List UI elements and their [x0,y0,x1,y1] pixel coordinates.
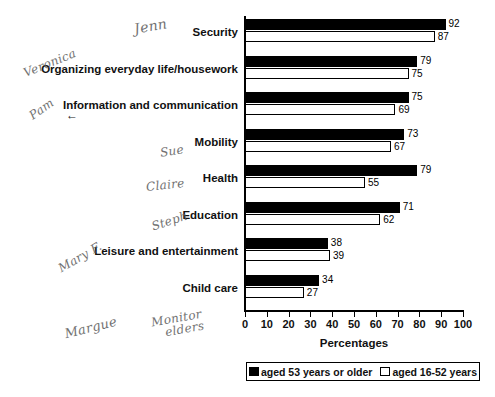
bar-value-older-security: 92 [449,18,460,29]
handwritten-note-pam: Pam [26,96,56,123]
bar-younger-leisure [245,250,330,261]
bar-younger-information [245,104,395,115]
bar-older-child-care [245,275,319,286]
legend-label-younger: aged 16-52 years [392,366,477,378]
x-axis-tick-label: 100 [454,318,472,331]
bar-younger-organizing [245,68,409,79]
bar-value-older-mobility: 73 [407,128,418,139]
category-label-child-care: Child care [182,282,238,295]
x-axis-tick-label: 20 [282,318,294,331]
x-axis-title: Percentages [245,337,463,349]
x-axis-tick-label: 80 [413,318,425,331]
category-label-organizing: Organizing everyday life/housework [41,63,238,76]
bar-older-security [245,19,446,30]
x-axis-tick-label: 0 [242,318,248,331]
x-axis-tick-label: 90 [435,318,447,331]
bar-younger-education [245,214,380,225]
bar-older-education [245,202,400,213]
handwritten-note-margue: Margue [63,314,119,341]
bar-value-older-health: 79 [420,164,431,175]
legend-label-older: aged 53 years or older [261,366,372,378]
bar-value-older-child-care: 34 [322,274,333,285]
bar-older-organizing [245,56,417,67]
x-axis-tick [376,312,377,317]
category-label-education: Education [182,209,238,222]
bar-value-younger-mobility: 67 [394,141,405,152]
legend-swatch-black-icon [249,367,259,376]
bar-group-organizing: 79 75 [245,55,463,92]
bar-value-younger-leisure: 39 [333,250,344,261]
x-axis-tick-label: 40 [326,318,338,331]
x-axis-tick [441,312,442,317]
bar-value-older-education: 71 [403,201,414,212]
bar-value-younger-security: 87 [438,31,449,42]
plot-area: 92 87 79 75 75 69 73 67 79 55 [245,18,463,310]
bar-value-younger-health: 55 [368,177,379,188]
x-axis-tick [354,312,355,317]
category-label-leisure: Leisure and entertainment [94,245,238,258]
x-axis-tick-label: 60 [370,318,382,331]
bar-younger-mobility [245,141,391,152]
legend-item-older[interactable]: aged 53 years or older [249,366,372,378]
handwritten-note-sue: Sue [159,142,185,159]
x-axis-tick [267,312,268,317]
bar-older-mobility [245,129,404,140]
bar-value-older-information: 75 [412,91,423,102]
x-axis-tick [310,312,311,317]
bar-value-younger-organizing: 75 [412,68,423,79]
bar-group-security: 92 87 [245,18,463,55]
x-axis-tick [398,312,399,317]
bar-value-younger-information: 69 [398,104,409,115]
category-label-security: Security [193,26,238,39]
legend-item-younger[interactable]: aged 16-52 years [380,366,477,378]
bar-value-older-organizing: 79 [420,55,431,66]
x-axis-tick [332,312,333,317]
x-axis-tick-label: 10 [261,318,273,331]
bar-older-leisure [245,238,328,249]
bar-value-older-leisure: 38 [331,237,342,248]
handwritten-note-claire: Claire [145,176,185,194]
bar-group-mobility: 73 67 [245,128,463,165]
x-axis-tick-label: 70 [391,318,403,331]
bar-group-information: 75 69 [245,91,463,128]
x-axis-tick [245,312,246,317]
bar-younger-child-care [245,287,304,298]
bar-group-health: 79 55 [245,164,463,201]
x-axis-tick [419,312,420,317]
x-axis-tick [463,312,464,317]
category-label-health: Health [203,172,238,185]
bar-group-child-care: 34 27 [245,274,463,311]
x-axis-tick [289,312,290,317]
x-axis-tick-label: 50 [348,318,360,331]
chart-legend: aged 53 years or older aged 16-52 years [246,362,480,381]
bar-younger-security [245,31,435,42]
bar-value-younger-education: 62 [383,214,394,225]
bar-older-health [245,165,417,176]
bar-chart: 92 87 79 75 75 69 73 67 79 55 [0,0,495,397]
legend-swatch-white-icon [380,367,390,376]
handwritten-note-jenn: Jenn [133,15,168,37]
handwritten-note-monitor-elders: Monitor elders [150,308,205,341]
bar-older-information [245,92,409,103]
bar-group-education: 71 62 [245,201,463,238]
left-arrow-icon: ← [66,108,78,122]
category-label-mobility: Mobility [195,136,238,149]
x-axis-tick-label: 30 [304,318,316,331]
bar-younger-health [245,177,365,188]
handwritten-note-steph: Steph [150,209,190,234]
bar-value-younger-child-care: 27 [307,287,318,298]
bar-group-leisure: 38 39 [245,237,463,274]
category-label-information: Information and communication [63,99,238,112]
